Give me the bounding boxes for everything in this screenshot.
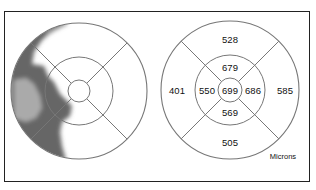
outer-inferior-value: 505 [222,137,238,148]
left-thickness-map [10,20,147,160]
outer-nasal-value: 585 [277,85,293,96]
inner-nasal-value: 686 [245,85,261,96]
units-label: Microns [270,152,297,161]
inner-inferior-value: 569 [222,107,238,118]
right-thickness-map: 528 679 699 550 686 401 585 569 505 Micr… [161,21,299,161]
center-value: 699 [222,85,238,96]
thickness-maps: 528 679 699 550 686 401 585 569 505 Micr… [0,0,316,190]
outer-superior-value: 528 [222,34,238,45]
inner-superior-value: 679 [222,62,238,73]
inner-temporal-value: 550 [199,85,215,96]
outer-temporal-value: 401 [169,85,185,96]
